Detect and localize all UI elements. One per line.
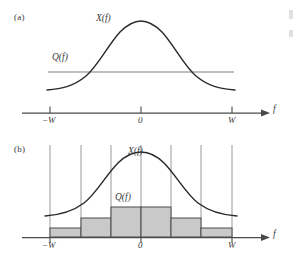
noise-bar — [111, 207, 141, 237]
edge-bleed-mark — [289, 30, 293, 37]
edge-bleed-mark — [289, 10, 293, 19]
panel-a-signal-spectrum-label: X(f) — [96, 13, 111, 23]
noise-bar — [201, 228, 232, 237]
noise-bar — [81, 218, 111, 237]
panel-a-noise-spectrum-label: Q(f) — [52, 52, 68, 62]
panel-a-axis-variable-label: f — [273, 104, 276, 114]
noise-bar — [141, 207, 171, 237]
panel-b-signal-spectrum-label: X(f) — [128, 146, 143, 156]
page-edge-bleed — [274, 0, 296, 46]
panel-a-tag: (a) — [14, 12, 25, 22]
spectrum-figure — [0, 0, 296, 275]
noise-bar — [50, 228, 81, 237]
noise-bar — [171, 218, 201, 237]
panel-b-noise-spectrum-label: Q(f) — [115, 192, 131, 202]
panel-b-tick-label-zero: 0 — [138, 240, 143, 250]
panel-b-axis-variable-label: f — [273, 229, 276, 239]
panel-b-tick-label-neg-w: −W — [42, 240, 56, 250]
panel-b-tag: (b) — [14, 144, 25, 154]
panel-a-tick-label-pos-w: W — [228, 115, 236, 125]
panel-b-tick-label-pos-w: W — [228, 240, 236, 250]
panel-a-tick-label-zero: 0 — [138, 115, 143, 125]
panel-a-tick-label-neg-w: −W — [42, 115, 56, 125]
